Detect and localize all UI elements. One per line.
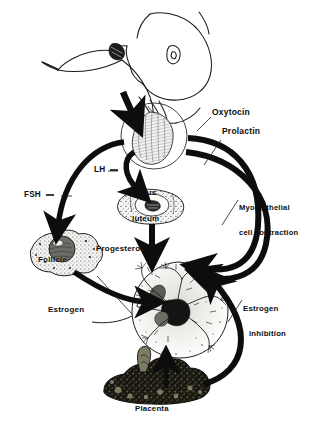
label-corpus-line2: luteum xyxy=(124,215,159,224)
label-corpus-luteum: Corpus luteum xyxy=(124,172,159,241)
label-placenta: Placenta xyxy=(135,405,169,413)
label-myoepithelial-cell-contraction: Myoepithelial cell contraction xyxy=(239,188,298,254)
fsh-arrow xyxy=(58,142,124,226)
label-estrogen-inhibition: Estrogen inhibition xyxy=(243,288,286,355)
label-corpus-line1: Corpus xyxy=(124,189,159,198)
label-fsh: FSH xyxy=(24,191,41,200)
lactation-hormone-diagram: Oxytocin Prolactin Myoepithelial cell co… xyxy=(0,0,315,425)
label-oxytocin: Oxytocin xyxy=(212,108,250,117)
label-myoepithelial-line1: Myoepithelial xyxy=(239,204,298,212)
label-progesterone: Progesterone xyxy=(96,245,150,254)
label-dashes xyxy=(46,170,118,195)
ovarian-follicle xyxy=(30,230,102,276)
label-follicle: Follicle xyxy=(38,256,67,265)
suckling-stimulus-arrow xyxy=(123,92,134,117)
label-estrogen-inhibition-line1: Estrogen xyxy=(243,305,286,313)
label-myoepithelial-line2: cell contraction xyxy=(239,229,298,237)
label-estrogen-inhibition-line2: inhibition xyxy=(243,330,286,338)
label-estrogen: Estrogen xyxy=(48,306,84,315)
label-lh: LH xyxy=(94,166,105,175)
label-prolactin: Prolactin xyxy=(222,127,260,136)
